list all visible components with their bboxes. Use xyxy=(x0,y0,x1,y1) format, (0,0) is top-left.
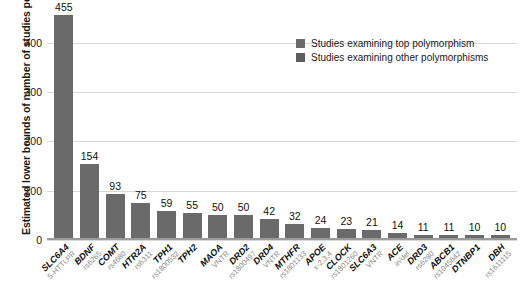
bar-segment-top-polymorphism xyxy=(54,15,73,240)
bar-value-label: 42 xyxy=(263,205,275,217)
y-axis-tick-label: 400 xyxy=(24,37,42,49)
bar[interactable]: 154 xyxy=(80,164,99,240)
x-axis-tick-label: TPH2 xyxy=(176,242,199,265)
y-axis-title: Estimated lower bounds of number of stud… xyxy=(20,0,34,235)
y-axis-tick-label: 300 xyxy=(24,86,42,98)
bar-value-label: 10 xyxy=(494,221,506,233)
bar-value-label: 10 xyxy=(469,221,481,233)
bar-segment-top-polymorphism xyxy=(157,211,176,240)
bar-group[interactable]: 50 xyxy=(205,8,231,240)
bar-segment-top-polymorphism xyxy=(260,219,279,240)
bar-value-label: 59 xyxy=(161,197,173,209)
legend-item[interactable]: Studies examining other polymorphisms xyxy=(296,52,488,63)
legend-color-swatch xyxy=(296,53,305,62)
bar[interactable]: 50 xyxy=(208,215,227,240)
bar-value-label: 14 xyxy=(392,219,404,231)
bar-segment-top-polymorphism xyxy=(208,215,227,240)
bar[interactable]: 59 xyxy=(157,211,176,240)
bar-value-label: 50 xyxy=(212,201,224,213)
y-axis-tick-label: 0 xyxy=(36,234,42,246)
bar-segment-top-polymorphism xyxy=(183,213,202,240)
bar-group[interactable]: 55 xyxy=(179,8,205,240)
bar-value-label: 75 xyxy=(135,189,147,201)
y-axis-tick-label: 100 xyxy=(24,185,42,197)
bar[interactable]: 50 xyxy=(234,215,253,240)
x-axis-tick-labels: SLC6A45-HTTLPRBDNFrs6265COMTrs4680HTR2Ar… xyxy=(47,240,517,301)
bar[interactable]: 42 xyxy=(260,219,279,240)
bar-value-label: 23 xyxy=(340,215,352,227)
bar[interactable]: 93 xyxy=(106,194,125,240)
bar-group[interactable]: 93 xyxy=(102,8,128,240)
chart-page: Estimated lower bounds of number of stud… xyxy=(0,0,522,301)
bar-group[interactable]: 59 xyxy=(154,8,180,240)
bar-group[interactable]: 75 xyxy=(128,8,154,240)
y-axis-tick-label: 200 xyxy=(24,135,42,147)
legend-item[interactable]: Studies examining top polymorphism xyxy=(296,38,488,49)
bar-group[interactable]: 50 xyxy=(231,8,257,240)
gene-name: TPH2 xyxy=(176,242,199,265)
x-axis-tick-label: ACEin/del xyxy=(384,242,411,269)
bar-value-label: 11 xyxy=(418,221,429,233)
bar-value-label: 11 xyxy=(443,221,454,233)
x-axis-tick-label: SLC6A45-HTTLPR xyxy=(38,242,77,281)
bar-group[interactable]: 42 xyxy=(256,8,282,240)
bar-value-label: 21 xyxy=(366,216,378,228)
chart-legend: Studies examining top polymorphismStudie… xyxy=(296,38,488,66)
legend-label: Studies examining other polymorphisms xyxy=(311,52,488,63)
legend-label: Studies examining top polymorphism xyxy=(311,38,474,49)
bar[interactable]: 75 xyxy=(131,203,150,240)
bar-group[interactable]: 10 xyxy=(487,8,513,240)
bar-segment-top-polymorphism xyxy=(106,194,125,240)
bar[interactable]: 55 xyxy=(183,213,202,240)
bar-segment-top-polymorphism xyxy=(80,164,99,240)
bar-segment-top-polymorphism xyxy=(234,215,253,240)
bar-value-label: 154 xyxy=(81,150,99,162)
bar-value-label: 24 xyxy=(315,214,327,226)
bar-segment-top-polymorphism xyxy=(131,203,150,240)
bar-value-label: 32 xyxy=(289,210,301,222)
bar-value-label: 455 xyxy=(55,1,73,13)
bar-value-label: 55 xyxy=(186,199,198,211)
bar-group[interactable]: 154 xyxy=(77,8,103,240)
bar-group[interactable]: 455 xyxy=(51,8,77,240)
bar[interactable]: 455 xyxy=(54,15,73,240)
legend-color-swatch xyxy=(296,39,305,48)
x-axis-tick-label: DBHrs1611115 xyxy=(476,242,513,279)
bar-value-label: 50 xyxy=(238,201,250,213)
bar-value-label: 93 xyxy=(109,180,121,192)
